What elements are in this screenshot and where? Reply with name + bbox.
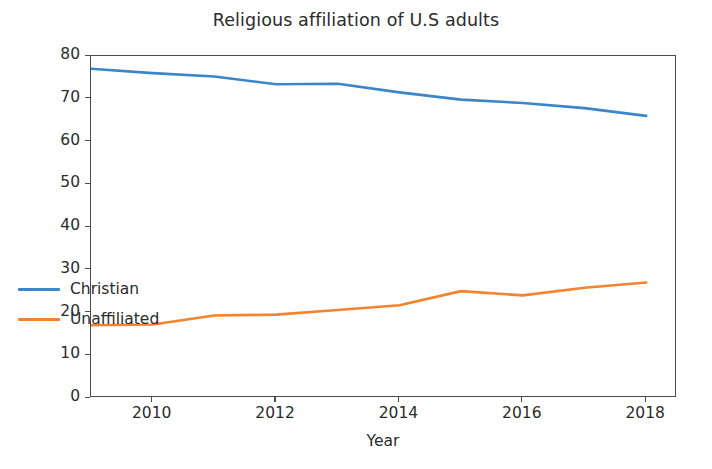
y-tick-label: 80 (60, 45, 80, 63)
series-line-unaffiliated (91, 283, 646, 326)
series-canvas (91, 56, 677, 398)
y-tick-label: 60 (60, 131, 80, 149)
y-tick-label: 50 (60, 173, 80, 191)
chart-legend: ChristianUnaffiliated (18, 280, 159, 328)
chart-figure: Religious affiliation of U.S adults % of… (0, 0, 712, 469)
x-tick-label: 2016 (502, 404, 541, 422)
legend-item-unaffiliated[interactable]: Unaffiliated (18, 310, 159, 328)
x-tick-label: 2018 (625, 404, 664, 422)
y-tick-label: 40 (60, 216, 80, 234)
plot-area (90, 55, 676, 397)
x-tick-label: 2012 (255, 404, 294, 422)
page-title: Religious affiliation of U.S adults (0, 10, 712, 30)
x-axis-label: Year (90, 432, 676, 450)
legend-swatch-icon (18, 288, 60, 291)
series-line-christian (91, 69, 646, 116)
legend-label: Christian (70, 280, 139, 298)
x-tick-label: 2010 (132, 404, 171, 422)
legend-item-christian[interactable]: Christian (18, 280, 159, 298)
legend-label: Unaffiliated (70, 310, 159, 328)
y-tick-label: 70 (60, 88, 80, 106)
x-tick-label: 2014 (379, 404, 418, 422)
legend-swatch-icon (18, 318, 60, 321)
y-tick-label: 0 (70, 387, 80, 405)
y-tick-label: 30 (60, 259, 80, 277)
y-tick-label: 10 (60, 344, 80, 362)
